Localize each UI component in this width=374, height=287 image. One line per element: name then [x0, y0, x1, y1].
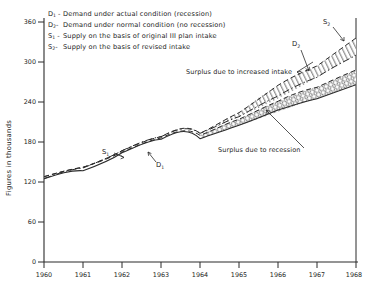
legend-item-d2: D2- Demand under normal condition (no re…	[48, 21, 226, 30]
x-tick-label: 1962	[114, 271, 130, 279]
legend-label-s1: Supply on the basis of original III plan…	[63, 32, 217, 40]
x-tick-label: 1967	[309, 271, 325, 279]
legend-key-s1: S1 -	[48, 32, 60, 41]
curve-label-s1: S1	[102, 148, 109, 157]
y-tick-label: 300	[24, 58, 36, 66]
legend: D1 - Demand under actual condition (rece…	[48, 10, 226, 52]
data-curves	[44, 38, 356, 179]
curve-label-s2: S2	[323, 18, 330, 27]
x-axis-tick-labels: 1960 1961 1962 1963 1964 1965 1966 1967 …	[36, 271, 362, 279]
leader-line-d1	[148, 152, 156, 162]
chart-svg: 360 300 240 180 120 60 0 1960 1961 1962 …	[0, 0, 374, 287]
axis-lines	[44, 18, 358, 262]
y-tick-label: 180	[24, 138, 36, 146]
x-tick-label: 1964	[192, 271, 208, 279]
curve-s2	[44, 38, 356, 177]
legend-key-d2: D2-	[48, 21, 59, 30]
curve-label-d1: D1	[156, 161, 164, 170]
annotation-increased-intake: Surplus due to increased intake	[186, 68, 292, 76]
y-tick-label: 120	[24, 178, 36, 186]
x-tick-label: 1961	[75, 271, 91, 279]
x-tick-label: 1960	[36, 271, 52, 279]
legend-key-s2: S2-	[48, 43, 58, 52]
y-tick-label: 0	[32, 258, 36, 266]
curve-label-d2: D2	[292, 40, 300, 49]
annotation-recession: Surplus due to recession	[218, 146, 301, 154]
y-tick-label: 240	[24, 98, 36, 106]
legend-label-d1: Demand under actual condition (recession…	[63, 10, 212, 18]
legend-item-d1: D1 - Demand under actual condition (rece…	[48, 10, 212, 19]
x-tick-label: 1965	[231, 271, 247, 279]
x-axis-ticks	[44, 262, 356, 268]
leader-line-recession	[266, 110, 304, 148]
legend-item-s1: S1 - Supply on the basis of original III…	[48, 32, 217, 41]
y-tick-label: 60	[28, 218, 36, 226]
curve-s1	[44, 70, 356, 177]
y-axis-title: Figures in thousands	[5, 120, 13, 196]
shaded-regions	[200, 38, 356, 139]
leader-line-d2	[301, 50, 309, 71]
leader-line-s2	[333, 27, 344, 41]
y-axis-ticks	[38, 22, 44, 262]
legend-label-d2: Demand under normal condition (no recess…	[63, 21, 226, 29]
chart-figure: 360 300 240 180 120 60 0 1960 1961 1962 …	[0, 0, 374, 287]
legend-label-s2: Supply on the basis of revised intake	[63, 43, 190, 51]
legend-item-s2: S2- Supply on the basis of revised intak…	[48, 43, 190, 52]
y-tick-label: 360	[24, 18, 36, 26]
x-tick-label: 1963	[153, 271, 169, 279]
y-axis-tick-labels: 360 300 240 180 120 60 0	[24, 18, 36, 266]
x-tick-label: 1968	[346, 271, 362, 279]
legend-key-d1: D1 -	[48, 10, 61, 19]
x-tick-label: 1966	[270, 271, 286, 279]
